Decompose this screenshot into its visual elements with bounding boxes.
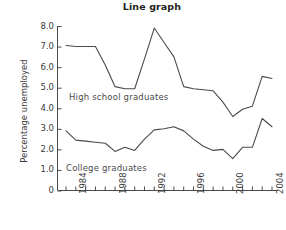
- x-axis-tick-label: 1992: [158, 172, 167, 194]
- series-label-college-graduates: College graduates: [66, 163, 147, 173]
- x-axis-tick-label: 1984: [79, 172, 88, 194]
- x-axis-tick-label: 2004: [276, 172, 285, 194]
- line-graph-figure: Line graph Percentage unemployed 01.02.0…: [0, 0, 286, 230]
- x-axis-tick-label: 1988: [119, 172, 128, 194]
- x-axis-tick-label: 2000: [236, 172, 245, 194]
- x-axis-tick-label: 1996: [197, 172, 206, 194]
- series-label-high-school-graduates: High school graduates: [69, 92, 168, 102]
- x-axis-tick-labels: 198419881992199620002004: [0, 0, 286, 230]
